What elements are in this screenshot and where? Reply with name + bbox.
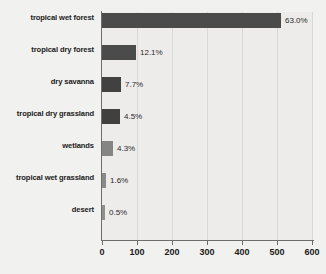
category-label: tropical wet forest (0, 13, 94, 22)
bar-value-label: 4.3% (117, 141, 135, 156)
x-tick-label: 500 (262, 247, 292, 257)
gridline (137, 12, 138, 240)
bar-value-label: 4.5% (124, 109, 142, 124)
bar (102, 77, 121, 92)
category-label: dry savanna (0, 77, 94, 86)
gridline (312, 12, 313, 240)
x-tick-label: 300 (192, 247, 222, 257)
x-tick-mark (207, 241, 208, 245)
x-tick-label: 400 (227, 247, 257, 257)
category-label: tropical dry forest (0, 45, 94, 54)
category-label: wetlands (0, 141, 94, 150)
x-tick-label: 200 (157, 247, 187, 257)
x-tick-label: 600 (297, 247, 326, 257)
x-tick-mark (102, 241, 103, 245)
bar (102, 45, 136, 60)
bar-value-label: 7.7% (125, 77, 143, 92)
x-tick-mark (172, 241, 173, 245)
gridline (242, 12, 243, 240)
bar-value-label: 0.5% (109, 205, 127, 220)
gridline (172, 12, 173, 240)
x-tick-mark (312, 241, 313, 245)
x-tick-label: 0 (87, 247, 117, 257)
gridline (207, 12, 208, 240)
x-tick-mark (137, 241, 138, 245)
x-tick-label: 100 (122, 247, 152, 257)
bar-chart: tropical wet forest tropical dry forest … (0, 0, 326, 274)
gridline (277, 12, 278, 240)
bar (102, 13, 281, 28)
plot-area: 63.0% 12.1% 7.7% 4.5% 4.3% 1.6% 0.5% (102, 12, 313, 240)
bar-value-label: 12.1% (140, 45, 163, 60)
bar-value-label: 1.6% (110, 173, 128, 188)
x-tick-mark (242, 241, 243, 245)
bar-value-label: 63.0% (285, 13, 308, 28)
category-axis-labels: tropical wet forest tropical dry forest … (0, 12, 98, 240)
bar (102, 173, 106, 188)
y-axis-line (101, 11, 102, 241)
category-label: desert (0, 205, 94, 214)
category-label: tropical dry grassland (0, 109, 94, 118)
bar (102, 109, 120, 124)
bar (102, 141, 113, 156)
category-label: tropical wet grassland (0, 173, 94, 182)
x-tick-mark (277, 241, 278, 245)
bar (102, 205, 105, 220)
